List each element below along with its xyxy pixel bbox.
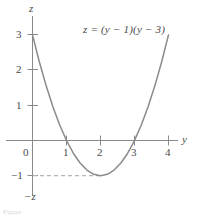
x-tick-label-3: 3 [131,147,137,158]
equation-annotation: z = (y − 1)(y − 3) [83,24,165,35]
caption-fragment: Figure [3,208,21,215]
axis-label-y: y [182,134,187,145]
axis-label-z-bottom: −z [24,191,36,202]
axis-label-z-top: z [29,3,33,14]
figure-container: z −z y 3 2 1 −1 0 1 2 3 4 z = (y − 1)(y … [0,0,198,215]
x-tick-label-1: 1 [63,147,69,158]
y-tick-label-minus-1: −1 [11,170,23,181]
x-tick-label-0: 0 [23,147,29,158]
y-tick-label-1: 1 [16,100,22,111]
x-tick-label-4: 4 [165,147,171,158]
x-tick-label-2: 2 [97,147,103,158]
y-tick-label-2: 2 [16,64,22,75]
y-tick-label-3: 3 [16,29,22,40]
